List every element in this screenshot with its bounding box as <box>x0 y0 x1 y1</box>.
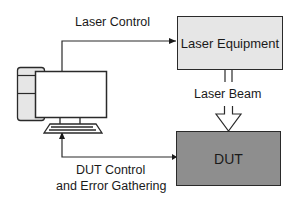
dut-control-label: DUT Control <box>76 164 145 177</box>
dut-label: DUT <box>214 151 243 167</box>
laser-beam-arrow-icon <box>216 106 241 131</box>
diagram-canvas: Laser Equipment DUT Laser Control Laser … <box>0 0 295 200</box>
dut-box: DUT <box>176 131 281 186</box>
laser-control-label: Laser Control <box>75 16 150 29</box>
laser-equipment-box: Laser Equipment <box>177 16 283 70</box>
laser-beam-label: Laser Beam <box>193 88 262 101</box>
laser-beam-lines <box>225 69 232 82</box>
laser-control-connector <box>62 41 176 71</box>
dut-control-connector <box>62 132 177 160</box>
error-gathering-label: and Error Gathering <box>56 180 166 193</box>
laser-equipment-label: Laser Equipment <box>181 36 279 51</box>
desktop-computer-icon <box>18 68 107 134</box>
